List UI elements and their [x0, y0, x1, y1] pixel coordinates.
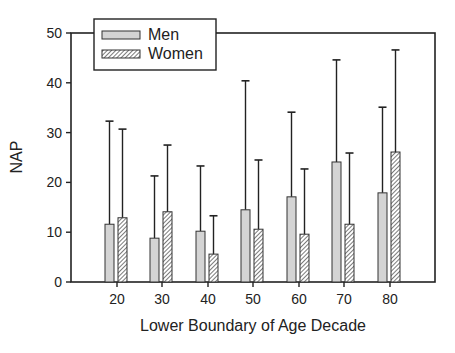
bar-women-50 [254, 229, 263, 282]
y-tick-label: 10 [46, 224, 62, 240]
bar-women-80 [391, 152, 400, 282]
bar-group [105, 50, 400, 282]
bar-men-30 [150, 238, 159, 282]
legend: Men Women [94, 19, 216, 70]
bar-women-20 [118, 218, 127, 282]
bar-men-60 [287, 197, 296, 282]
bar-women-40 [209, 254, 218, 282]
y-tick-label: 50 [46, 25, 62, 41]
bar-men-50 [241, 210, 250, 282]
y-axis-title: NAP [8, 141, 25, 174]
bar-women-30 [163, 212, 172, 282]
x-axis: 20304050607080 [109, 282, 398, 307]
bar-men-20 [105, 224, 114, 282]
y-tick-label: 30 [46, 125, 62, 141]
x-tick-label: 60 [291, 291, 307, 307]
legend-swatch-women [102, 50, 140, 58]
bar-men-70 [332, 162, 341, 282]
y-axis: 01020304050 [46, 25, 71, 290]
y-tick-label: 40 [46, 75, 62, 91]
x-axis-title: Lower Boundary of Age Decade [140, 317, 366, 334]
bar-chart: 01020304050 20304050607080 Lower Boundar… [0, 0, 455, 353]
bar-women-60 [300, 234, 309, 282]
legend-swatch-men [102, 31, 140, 39]
bar-men-40 [196, 231, 205, 282]
x-tick-label: 70 [336, 291, 352, 307]
chart-container: 01020304050 20304050607080 Lower Boundar… [0, 0, 455, 353]
legend-label-women: Women [148, 45, 203, 62]
legend-label-men: Men [148, 26, 179, 43]
y-tick-label: 20 [46, 174, 62, 190]
x-tick-label: 50 [245, 291, 261, 307]
x-tick-label: 80 [382, 291, 398, 307]
bar-men-80 [378, 193, 387, 282]
x-tick-label: 20 [109, 291, 125, 307]
x-tick-label: 40 [200, 291, 216, 307]
x-tick-label: 30 [154, 291, 170, 307]
bar-women-70 [345, 224, 354, 282]
y-tick-label: 0 [54, 274, 62, 290]
